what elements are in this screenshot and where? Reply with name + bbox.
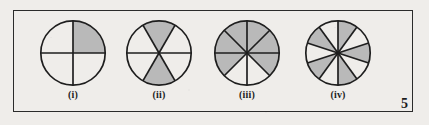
pie-figure-ii: (ii) [124,18,196,110]
pie-label-i: (i) [38,88,108,102]
pie-label-ii: (ii) [124,88,194,102]
circle-row: (i) (ii) (iii) (iv) [14,11,414,113]
pie-diagram-i [38,18,108,88]
pie-diagram-iv [303,18,373,88]
pie-figure-i: (i) [38,18,110,110]
pie-sector-shaded [215,53,247,76]
pie-figure-iv: (iv) [303,18,375,110]
pie-sector-shaded [143,53,175,85]
pie-diagram-ii [124,18,194,88]
pie-label-iii: (iii) [212,88,282,102]
pie-sector-shaded [143,21,175,53]
pie-sector-shaded [247,53,279,76]
page-number: 5 [401,96,408,112]
figure-image: (i) (ii) (iii) (iv) 5 [0,0,429,125]
pie-diagram-iii [212,18,282,88]
pie-label-iv: (iv) [303,88,373,102]
pie-figure-iii: (iii) [212,18,284,110]
figure-border: (i) (ii) (iii) (iv) 5 [13,10,413,112]
